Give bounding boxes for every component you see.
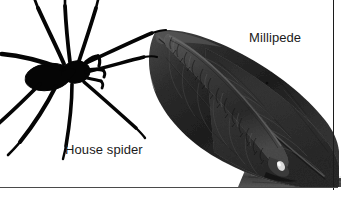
millipede-label: Millipede: [249, 31, 301, 45]
house-spider-label: House spider: [65, 143, 143, 157]
figure-panel: Millipede House spider: [0, 0, 341, 198]
leaf-speck: [266, 82, 269, 85]
house-spider-silhouette: [0, 0, 166, 159]
right-border-rule: [333, 0, 334, 190]
bottom-border-rule: [0, 187, 338, 188]
